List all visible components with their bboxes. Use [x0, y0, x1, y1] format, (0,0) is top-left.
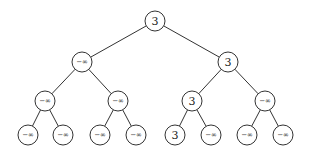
node-value-label: −∞ — [76, 58, 88, 66]
node-value-label: −∞ — [259, 97, 271, 105]
tree-edge — [197, 110, 206, 127]
tree-node: −∞ — [108, 91, 128, 111]
tree-node: 3 — [218, 52, 238, 72]
tree-node: −∞ — [72, 52, 92, 72]
tree-edge — [270, 110, 279, 126]
node-value-label: −∞ — [205, 131, 217, 139]
node-value-label: 3 — [172, 129, 179, 142]
node-value-label: −∞ — [39, 97, 51, 105]
node-value-label: −∞ — [277, 131, 289, 139]
node-value-label: −∞ — [94, 131, 106, 139]
node-value-label: −∞ — [112, 97, 124, 105]
tree-edge — [199, 69, 221, 93]
tree-node: −∞ — [273, 125, 293, 145]
tree-node: −∞ — [90, 125, 110, 145]
node-value-label: 3 — [189, 95, 196, 108]
tree-node: −∞ — [201, 125, 221, 145]
tree-edge — [235, 69, 258, 93]
tree-edge — [252, 110, 261, 126]
tree-node: −∞ — [237, 125, 257, 145]
tree-edge — [164, 26, 220, 57]
tree-edge — [91, 26, 147, 57]
tree-edge — [179, 110, 187, 126]
node-value-label: −∞ — [241, 131, 253, 139]
tree-nodes: 3−∞3−∞−∞3−∞−∞−∞−∞−∞3−∞−∞−∞ — [18, 11, 293, 145]
tree-edge — [32, 110, 40, 126]
tree-edge — [123, 110, 132, 126]
tree-node: 3 — [165, 125, 185, 145]
tree-node: −∞ — [35, 91, 55, 111]
node-value-label: −∞ — [130, 131, 142, 139]
tree-node: −∞ — [53, 125, 73, 145]
node-value-label: 3 — [152, 15, 159, 28]
tree-node: 3 — [145, 11, 165, 31]
minimax-tree-diagram: 3−∞3−∞−∞3−∞−∞−∞−∞−∞3−∞−∞−∞ — [0, 0, 310, 162]
tree-edge — [50, 110, 59, 126]
tree-edge — [52, 69, 75, 93]
tree-edge — [89, 69, 111, 93]
node-value-label: −∞ — [22, 131, 34, 139]
tree-node: −∞ — [255, 91, 275, 111]
tree-node: −∞ — [126, 125, 146, 145]
tree-edges — [32, 26, 278, 126]
node-value-label: 3 — [225, 56, 232, 69]
node-value-label: −∞ — [57, 131, 69, 139]
tree-edge — [105, 110, 114, 126]
tree-node: 3 — [182, 91, 202, 111]
tree-node: −∞ — [18, 125, 38, 145]
